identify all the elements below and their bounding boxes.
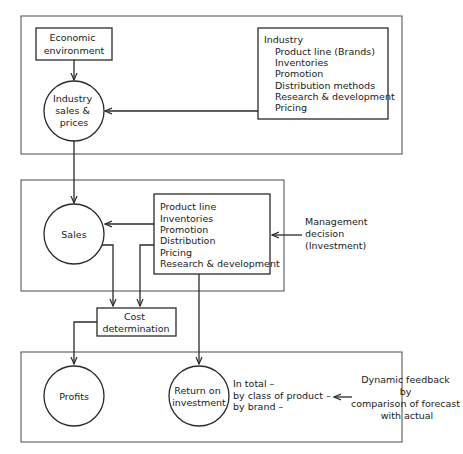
roi-circle: [169, 366, 229, 426]
sales-label: Sales: [61, 229, 86, 240]
roi-breakdown-label: In total – by class of product – by bran…: [233, 378, 334, 412]
management-decision-label: Management decision (Investment): [305, 216, 371, 251]
arrow-cost-to-profits: [74, 322, 97, 364]
arrow-sales-to-cost: [102, 245, 113, 306]
dynamic-feedback-label: Dynamic feedback by comparison of foreca…: [351, 374, 463, 421]
flow-diagram: Economic environment Industry sales & pr…: [0, 0, 463, 454]
profits-label: Profits: [59, 391, 89, 402]
arrow-factors-to-cost: [140, 245, 154, 306]
roi-label: Return on investment: [172, 385, 226, 408]
